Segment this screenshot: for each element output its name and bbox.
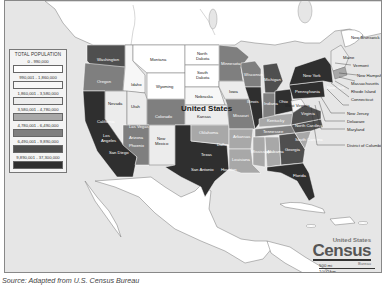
label-north-carolina: North Carolina [295,123,323,128]
label-los-angeles-2: Angeles [101,138,116,143]
label-dallas: Dallas [217,142,229,147]
legend: TOTAL POPULATION 0 - 990,000 990,001 - 1… [9,49,67,173]
callout-rhode-island: Rhode Island [351,89,376,94]
source-caption: Source: Adapted from U.S. Census Bureau [2,276,139,285]
map-frame: Washington Oregon Idaho Montana Wyoming … [4,0,382,273]
label-georgia: Georgia [285,147,301,152]
label-idaho: Idaho [131,82,142,87]
legend-swatch-1 [13,65,63,73]
legend-range-5: 4,780,001 - 6,490,000 [13,123,63,128]
legend-range-6: 6,490,001 - 9,890,000 [13,139,63,144]
label-wisconsin: Wisconsin [244,72,264,77]
label-minnesota: Minnesota [221,61,241,66]
label-michigan: Michigan [264,77,281,82]
label-alabama: Alabama [267,149,284,154]
label-texas: Texas [201,152,212,157]
legend-range-2: 990,001 - 1,860,000 [13,75,63,80]
label-new-york: New York [303,73,322,78]
legend-swatch-6 [13,145,63,153]
legend-title: TOTAL POPULATION [13,52,63,57]
label-las-vegas: Las Vegas [129,124,149,129]
label-washington: Washington [97,57,120,62]
label-colorado: Colorado [155,114,173,119]
label-oregon: Oregon [97,79,112,84]
logo-census: Census [313,243,371,258]
label-utah: Utah [131,104,141,109]
legend-range-1: 0 - 990,000 [13,59,63,64]
label-tennessee: Tennessee [263,129,284,134]
label-nevada: Nevada [108,101,123,106]
label-indiana: Indiana [264,101,278,106]
label-louisiana: Louisiana [232,157,251,162]
callout-new-jersey: New Jersey [347,111,370,116]
label-new-york-city: New York [327,85,346,90]
label-new-mexico-2: Mexico [155,141,169,146]
callout-connecticut: Connecticut [351,97,374,102]
callout-maine: Maine [343,55,355,60]
label-iowa: Iowa [229,89,239,94]
legend-swatch-2 [13,81,63,89]
legend-swatch-3 [13,97,63,105]
label-missouri: Missouri [233,113,249,118]
label-kansas: Kansas [197,114,211,119]
label-kentucky: Kentucky [267,118,285,123]
label-houston: Houston [221,167,237,172]
label-virginia: Virginia [301,111,316,116]
legend-range-3: 1,860,001 - 3,580,000 [13,91,63,96]
callout-vermont: Vermont [353,63,369,68]
callout-maryland: Maryland [347,127,365,132]
callout-new-brunswick: New Brunswick [351,35,381,40]
label-pennsylvania: Pennsylvania [295,89,321,94]
callout-massachusetts: Massachusetts [351,81,379,86]
label-arizona: Arizona [129,135,144,140]
label-san-diego: San Diego [109,150,129,155]
label-oklahoma: Oklahoma [199,130,219,135]
callout-delaware: Delaware [347,119,365,124]
legend-swatch-4 [13,113,63,121]
label-south-carolina: South Carolina [295,137,323,142]
legend-range-7: 9,890,001 - 37,300,000 [13,155,63,160]
label-phoenix: Phoenix [129,143,145,148]
label-california: California [97,119,115,124]
label-west-virginia: West Virginia [285,103,310,108]
legend-swatch-7 [13,161,63,169]
scale-km: 1000 km [319,269,375,273]
label-nebraska: Nebraska [195,94,214,99]
label-south-dakota-2: Dakota [196,75,210,80]
label-florida: Florida [293,173,306,178]
label-illinois: Illinois [247,99,259,104]
legend-range-4: 3,580,001 - 4,780,000 [13,107,63,112]
label-arkansas: Arkansas [233,134,250,139]
scale-bar: 500 mi 1000 km [319,263,375,273]
label-north-dakota-2: Dakota [196,56,210,61]
label-austin: San Antonio [191,167,214,172]
country-title: United States [181,104,233,113]
callout-district-of-columbia: District of Columbia [347,143,382,148]
label-montana: Montana [150,57,167,62]
callout-new-hampshire: New Hampshire [357,73,382,78]
census-bureau-logo: United States Census Bureau [313,237,371,266]
label-wyoming: Wyoming [156,84,174,89]
legend-swatch-5 [13,129,63,137]
